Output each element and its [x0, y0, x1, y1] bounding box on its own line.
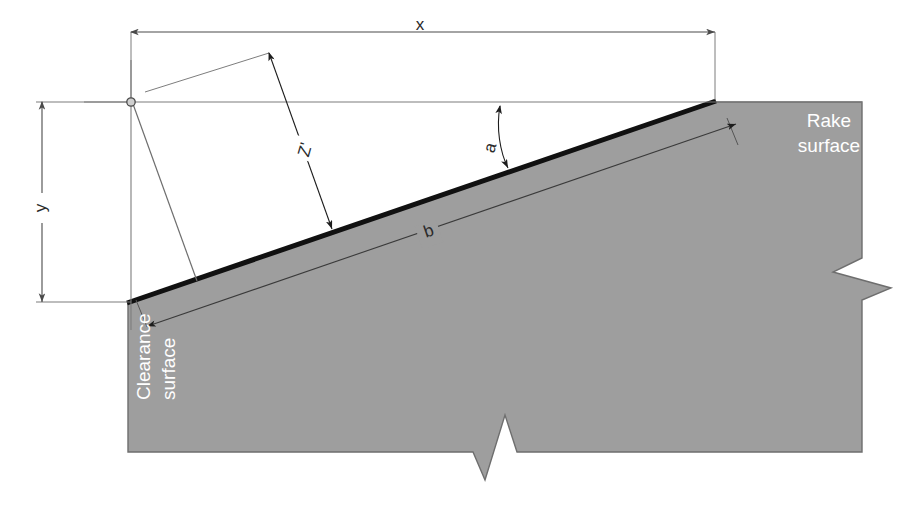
dimension-label-y: y	[31, 203, 50, 212]
rake-surface-label-line1: Rake	[807, 110, 851, 131]
clearance-surface-label-line1: Clearance	[133, 313, 154, 400]
rake-surface-label-line2: surface	[798, 135, 860, 156]
diagram-canvas: x y Zʹ a b Rake surface Clearance surfac…	[0, 0, 914, 508]
tool-geometry-diagram: x y Zʹ a b Rake surface Clearance surfac…	[0, 0, 914, 508]
clearance-surface-label-line2: surface	[158, 338, 179, 400]
dimension-label-a: a	[480, 140, 501, 155]
apex-node-icon	[127, 98, 135, 106]
z-construction-line-upper	[145, 53, 269, 92]
tool-body-shape	[128, 102, 891, 480]
angle-a-arc	[498, 106, 508, 168]
dimension-label-x: x	[416, 15, 425, 34]
z-construction-line-lower	[133, 104, 197, 281]
